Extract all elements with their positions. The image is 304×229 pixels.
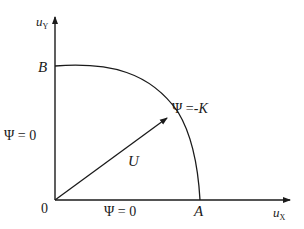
- arc-boundary-label: Ψ =-K: [172, 101, 208, 116]
- bottom-boundary-label: Ψ = 0: [104, 204, 136, 219]
- origin-label: 0: [41, 201, 48, 216]
- boundary-arc: [55, 65, 200, 200]
- diagram-canvas: uY B Ψ = 0 Ψ =-K U 0 Ψ = 0 A uX: [0, 0, 304, 229]
- y-axis-label: uY: [36, 14, 49, 31]
- point-a-label: A: [193, 203, 204, 219]
- left-boundary-label: Ψ = 0: [4, 128, 36, 143]
- velocity-vector: [55, 118, 167, 200]
- vector-u-label: U: [128, 153, 140, 169]
- x-axis-label: uX: [273, 205, 286, 222]
- point-b-label: B: [38, 59, 47, 75]
